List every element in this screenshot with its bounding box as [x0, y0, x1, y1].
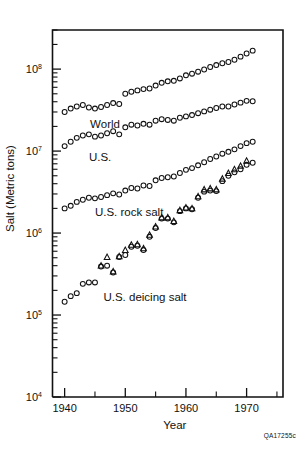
- data-point-circle: [190, 71, 195, 76]
- data-point-circle: [177, 76, 182, 81]
- data-point-circle: [196, 111, 201, 116]
- data-point-circle: [135, 88, 140, 93]
- data-point-triangle: [238, 163, 244, 168]
- data-point-circle: [214, 63, 219, 68]
- data-point-triangle: [232, 166, 238, 171]
- data-point-circle: [68, 106, 73, 111]
- y-tick-label: 108: [26, 63, 42, 76]
- figure-root: 104105106107108 1940195019601970YearSalt…: [0, 0, 305, 455]
- data-point-circle: [123, 188, 128, 193]
- data-point-circle: [147, 184, 152, 189]
- series-inline-labels: WorldU.S.U.S. rock saltU.S. deicing salt: [89, 118, 187, 302]
- data-point-circle: [238, 100, 243, 105]
- data-point-circle: [220, 104, 225, 109]
- data-point-circle: [226, 60, 231, 65]
- data-point-circle: [202, 67, 207, 72]
- data-point-triangle: [122, 247, 128, 252]
- data-point-circle: [62, 299, 67, 304]
- data-point-circle: [74, 291, 79, 296]
- data-point-circle: [123, 91, 128, 96]
- data-point-circle: [105, 103, 110, 108]
- y-tick-label: 104: [26, 391, 42, 404]
- data-point-circle: [220, 61, 225, 66]
- data-point-circle: [86, 105, 91, 110]
- data-point-circle: [99, 195, 104, 200]
- data-point-triangle: [153, 224, 159, 229]
- data-point-circle: [93, 106, 98, 111]
- data-point-circle: [86, 132, 91, 137]
- x-tick-label: 1960: [174, 402, 198, 414]
- data-point-circle: [147, 86, 152, 91]
- data-point-circle: [184, 114, 189, 119]
- x-axis-title: Year: [163, 419, 186, 431]
- data-point-circle: [74, 199, 79, 204]
- data-point-circle: [208, 107, 213, 112]
- data-point-triangle: [177, 207, 183, 212]
- data-point-circle: [111, 191, 116, 196]
- axis-ticks: [53, 30, 277, 397]
- data-point-circle: [129, 122, 134, 127]
- data-point-circle: [129, 89, 134, 94]
- data-point-circle: [62, 110, 67, 115]
- data-point-circle: [226, 104, 231, 109]
- data-point-circle: [232, 57, 237, 62]
- data-point-circle: [117, 192, 122, 197]
- data-point-circle: [153, 83, 158, 88]
- data-point-circle: [68, 139, 73, 144]
- data-point-circle: [159, 176, 164, 181]
- data-point-circle: [214, 106, 219, 111]
- data-point-circle: [62, 206, 67, 211]
- data-point-circle: [86, 280, 91, 285]
- data-point-circle: [135, 123, 140, 128]
- data-point-circle: [153, 178, 158, 183]
- data-point-circle: [147, 122, 152, 127]
- data-point-triangle: [110, 268, 116, 273]
- data-point-circle: [141, 121, 146, 126]
- data-point-circle: [80, 133, 85, 138]
- us-rock-salt-label: U.S. rock salt: [95, 206, 164, 218]
- data-point-circle: [74, 104, 79, 109]
- data-point-triangle: [98, 263, 104, 268]
- data-point-triangle: [116, 253, 122, 258]
- data-point-circle: [232, 170, 237, 175]
- data-point-circle: [244, 51, 249, 56]
- data-point-circle: [68, 294, 73, 299]
- data-point-circle: [232, 102, 237, 107]
- data-point-circle: [171, 118, 176, 123]
- data-point-triangle: [165, 214, 171, 219]
- us-label: U.S.: [89, 151, 111, 163]
- data-point-circle: [68, 203, 73, 208]
- data-point-triangle: [213, 186, 219, 191]
- data-point-circle: [244, 98, 249, 103]
- data-point-circle: [226, 149, 231, 154]
- data-point-circle: [159, 80, 164, 85]
- data-point-circle: [99, 133, 104, 138]
- data-point-circle: [202, 109, 207, 114]
- data-point-circle: [111, 101, 116, 106]
- data-point-circle: [238, 167, 243, 172]
- figure-id: QA17255c: [264, 432, 297, 440]
- data-point-circle: [244, 141, 249, 146]
- data-point-circle: [250, 160, 255, 165]
- data-point-circle: [141, 183, 146, 188]
- data-point-triangle: [195, 193, 201, 198]
- data-point-circle: [250, 48, 255, 53]
- data-point-circle: [117, 132, 122, 137]
- data-point-circle: [165, 175, 170, 180]
- data-point-circle: [80, 103, 85, 108]
- data-point-circle: [105, 193, 110, 198]
- data-point-circle: [135, 186, 140, 191]
- x-tick-label: 1950: [113, 402, 137, 414]
- us-deicing-salt-label: U.S. deicing salt: [103, 291, 187, 303]
- data-point-circle: [171, 174, 176, 179]
- data-point-circle: [177, 115, 182, 120]
- data-point-circle: [250, 99, 255, 104]
- y-tick-label: 105: [26, 309, 42, 322]
- data-point-circle: [165, 117, 170, 122]
- data-point-circle: [86, 195, 91, 200]
- data-point-circle: [62, 144, 67, 149]
- data-point-circle: [196, 163, 201, 168]
- data-point-circle: [153, 118, 158, 123]
- data-point-circle: [177, 171, 182, 176]
- data-point-triangle: [171, 218, 177, 223]
